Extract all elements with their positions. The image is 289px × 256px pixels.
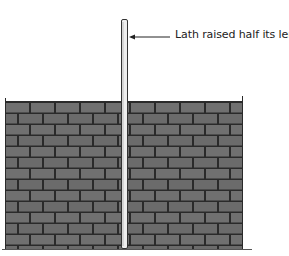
lath [122, 20, 128, 249]
annotation-label: Lath raised half its length [175, 28, 289, 41]
lath-body [122, 20, 128, 249]
arrow-head-icon [129, 35, 135, 40]
annotation-arrow [129, 35, 170, 40]
